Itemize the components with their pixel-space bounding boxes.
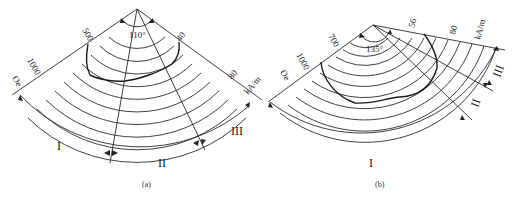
panel-b-region-3: III	[490, 63, 507, 79]
panel-a-region-3: III	[231, 124, 243, 138]
panel-b-label-80: 80	[447, 24, 459, 36]
panel-a-right-boundary	[137, 9, 262, 100]
panel-b-region-1: I	[369, 156, 373, 170]
panel-a-label-unit: kA/m	[242, 74, 263, 96]
panel-a-region-2: II	[158, 156, 166, 170]
panel-b-caption: (b)	[375, 180, 385, 189]
panel-b-label-700: 700	[326, 32, 342, 49]
panel-a-label-1000: 1000	[25, 56, 43, 77]
panel-a-region-1: I	[57, 139, 61, 153]
panel-b-label-1000: 1000	[294, 51, 312, 72]
panel-b-angle-label: 135°	[366, 44, 384, 54]
panel-a-left-boundary	[12, 9, 137, 95]
panel-a-label-40: 40	[174, 30, 188, 44]
figure-canvas: 110° 500 1000 Oe 40 80 kA/m I II III (a)	[0, 0, 515, 202]
panel-b-diagram: 135° 700 1000 Oe 56 80 kA/m I II III (b)	[268, 17, 507, 189]
panel-a-angle-arc	[122, 20, 152, 27]
panel-a-label-80: 80	[226, 68, 240, 82]
panel-a-diagram: 110° 500 1000 Oe 40 80 kA/m I II III (a)	[10, 9, 262, 189]
panel-b-region-2: II	[468, 97, 484, 109]
panel-a-label-500: 500	[80, 26, 96, 43]
panel-a-caption: (a)	[142, 180, 151, 189]
panel-a-ray-2	[137, 9, 205, 150]
panel-a-label-oe: Oe	[10, 74, 24, 88]
panel-b-label-unit: kA/m	[472, 18, 487, 40]
panel-a-angle-label: 110°	[129, 30, 146, 40]
panel-b-label-56: 56	[406, 17, 418, 29]
panel-b-label-oe: Oe	[278, 68, 292, 82]
panel-b-arcs	[280, 38, 496, 142]
